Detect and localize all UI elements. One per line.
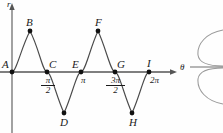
- r-axis-label: r: [7, 0, 11, 9]
- tick-denominator: 2: [106, 85, 125, 95]
- point-label-C: C: [49, 59, 56, 70]
- point-label-A: A: [2, 59, 9, 70]
- tick-label-pi-over-2: π 2: [41, 76, 55, 96]
- figure-canvas: [0, 0, 223, 133]
- point-marker-I: [147, 70, 152, 75]
- tick-label-pi: π: [81, 76, 93, 85]
- tick-numerator: 3π: [106, 76, 125, 85]
- point-label-B: B: [26, 17, 33, 28]
- theta-axis-label: θ: [180, 63, 184, 72]
- point-marker-H: [130, 111, 135, 116]
- theta-axis-arrow-icon: [170, 69, 177, 74]
- tick-label-3pi-over-2: 3π 2: [106, 76, 125, 96]
- point-marker-D: [62, 111, 67, 116]
- tick-label-2pi: 2π: [150, 76, 168, 85]
- point-marker-G: [113, 70, 118, 75]
- tick-denominator: 2: [41, 85, 55, 95]
- point-marker-B: [28, 29, 33, 34]
- point-label-I: I: [147, 58, 151, 69]
- r-axis: [9, 3, 14, 133]
- point-marker-A: [10, 70, 15, 75]
- point-label-F: F: [95, 17, 102, 28]
- point-label-G: G: [117, 59, 125, 70]
- point-label-E: E: [72, 59, 79, 70]
- point-marker-C: [45, 70, 50, 75]
- side-figure-cropped: [190, 30, 223, 104]
- point-label-D: D: [60, 117, 68, 128]
- point-marker-F: [96, 29, 101, 34]
- tick-numerator: π: [41, 76, 55, 85]
- point-marker-E: [79, 70, 84, 75]
- point-label-H: H: [129, 117, 137, 128]
- polar-graph-figure: r θ A B C D E F G H I π 2 π 3π 2 2π: [0, 0, 223, 133]
